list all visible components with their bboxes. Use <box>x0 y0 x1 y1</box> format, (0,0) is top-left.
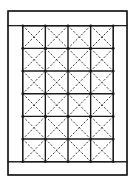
intersection-dot <box>21 115 24 118</box>
intersection-dot <box>21 92 24 95</box>
intersection-dot <box>89 115 92 118</box>
intersection-dot <box>67 138 70 141</box>
border-bottom <box>8 162 127 175</box>
intersection-dot <box>67 47 70 50</box>
intersection-dot <box>44 115 47 118</box>
quilt-diagram <box>0 0 137 188</box>
intersection-dot <box>44 92 47 95</box>
intersection-dot <box>112 47 115 50</box>
intersection-dot <box>89 92 92 95</box>
intersection-dot <box>67 24 70 27</box>
quilt-diagram-canvas <box>0 0 137 188</box>
intersection-dot <box>67 92 70 95</box>
intersection-dot <box>21 138 24 141</box>
intersection-dot <box>67 160 70 163</box>
intersection-dot <box>21 160 24 163</box>
intersection-dot <box>89 160 92 163</box>
intersection-dot <box>67 70 70 73</box>
intersection-dot <box>112 160 115 163</box>
intersection-dot <box>44 47 47 50</box>
intersection-dot <box>44 24 47 27</box>
border-top <box>8 11 127 26</box>
intersection-dot <box>112 70 115 73</box>
intersection-dot <box>21 24 24 27</box>
intersection-dot <box>112 92 115 95</box>
intersection-dot <box>89 47 92 50</box>
intersection-dot <box>44 160 47 163</box>
intersection-dot <box>21 47 24 50</box>
intersection-dot <box>112 24 115 27</box>
intersection-dot <box>112 115 115 118</box>
intersection-dot <box>89 24 92 27</box>
intersection-dot <box>89 70 92 73</box>
intersection-dot <box>44 138 47 141</box>
intersection-dot <box>89 138 92 141</box>
intersection-dot <box>21 70 24 73</box>
border-right <box>113 26 127 162</box>
intersection-dot <box>44 70 47 73</box>
border-left <box>8 26 23 162</box>
intersection-dot <box>112 138 115 141</box>
intersection-dot <box>67 115 70 118</box>
